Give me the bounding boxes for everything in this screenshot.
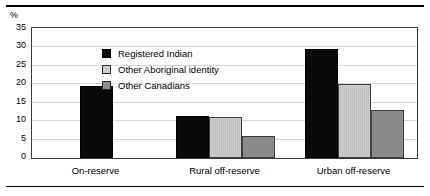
- legend-swatch-icon: [102, 81, 111, 90]
- bar: [371, 110, 404, 158]
- y-tick-label: 10: [4, 115, 26, 124]
- y-tick-label: 15: [4, 97, 26, 106]
- x-tick-label: Rural off-reserve: [165, 165, 285, 176]
- gridline: [32, 65, 417, 66]
- x-tick-label: On-reserve: [36, 165, 156, 176]
- bar: [176, 116, 209, 158]
- y-tick-label: 5: [4, 134, 26, 143]
- legend-item: Other Canadians: [102, 77, 219, 93]
- chart-legend: Registered IndianOther Aboriginal identi…: [102, 45, 219, 93]
- gridline: [32, 46, 417, 47]
- top-divider-rule: [6, 5, 424, 7]
- bar: [338, 84, 371, 158]
- y-axis-unit-label: %: [10, 10, 18, 20]
- y-tick-label: 25: [4, 60, 26, 69]
- chart-plot-area: [31, 27, 418, 159]
- plot-inner: [32, 28, 417, 158]
- legend-label: Other Canadians: [118, 80, 190, 91]
- bar: [80, 86, 113, 158]
- legend-swatch-icon: [102, 49, 111, 58]
- bar: [242, 136, 275, 158]
- y-tick-label: 35: [4, 23, 26, 32]
- legend-item: Registered Indian: [102, 45, 219, 61]
- y-tick-label: 30: [4, 41, 26, 50]
- x-tick-label: Urban off-reserve: [294, 165, 414, 176]
- bottom-divider-rule: [6, 186, 424, 187]
- bar: [209, 117, 242, 158]
- bar: [305, 49, 338, 158]
- y-tick-label: 20: [4, 78, 26, 87]
- legend-item: Other Aboriginal identity: [102, 61, 219, 77]
- y-tick-label: 0: [4, 152, 26, 161]
- legend-label: Other Aboriginal identity: [118, 64, 219, 75]
- legend-label: Registered Indian: [118, 48, 192, 59]
- legend-swatch-icon: [102, 65, 111, 74]
